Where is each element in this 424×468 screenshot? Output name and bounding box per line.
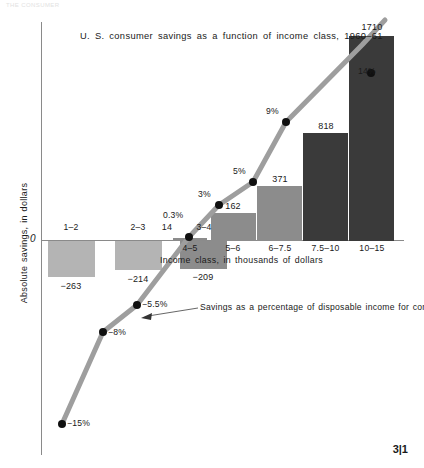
y-axis-zero-tick: 0: [30, 233, 36, 244]
value-label-4-5: 14: [156, 222, 178, 232]
pct-label-3: 3%: [198, 189, 211, 199]
xtick-7.5-10: 7.5–10: [301, 243, 350, 253]
bar-2-3: [115, 241, 162, 270]
xtick-4-5: 4–5: [170, 243, 210, 253]
figure-container: THE CONSUMER U. S. consumer savings as a…: [0, 0, 424, 468]
bar-1-2: [48, 241, 95, 277]
pct-label-14: 14%: [358, 66, 376, 76]
pct-label-9: 9%: [266, 106, 279, 116]
value-label-5-6: 162: [211, 201, 255, 211]
annotation-arrowhead: [141, 313, 152, 320]
y-axis-label: Absolute savings, in dollars: [19, 153, 29, 333]
pct-label--5.5: −5.5%: [142, 299, 168, 309]
xtick-5-6: 5–6: [213, 243, 253, 253]
pct-label-0.3: 0.3%: [163, 210, 183, 220]
point--15pct: [58, 420, 66, 428]
xtick-1-2: 1–2: [51, 222, 91, 232]
pct-label--15: −15%: [67, 418, 90, 428]
value-label-1-2: −263: [49, 281, 93, 291]
point-0.3pct: [185, 233, 193, 241]
xtick-2-3: 2–3: [118, 222, 158, 232]
point-5pct: [249, 178, 257, 186]
xtick-3-4: 3–4: [184, 222, 224, 232]
xtick-10-15: 10–15: [348, 243, 396, 253]
chart-title: U. S. consumer savings as a function of …: [80, 30, 305, 43]
value-label-10-15: 1710: [350, 22, 394, 32]
page-number: 3|1: [393, 443, 408, 455]
bar-6-7.5: [257, 186, 302, 241]
bar-7.5-10: [303, 133, 348, 241]
pct-label--8: −8%: [108, 327, 126, 337]
annotation-leader: [148, 308, 198, 316]
value-label-2-3: −214: [116, 274, 160, 284]
point-9pct: [282, 118, 290, 126]
point--8pct: [99, 328, 107, 336]
value-label-3-4: −209: [181, 272, 225, 282]
point--5.5pct: [133, 301, 141, 309]
value-label-6-7.5: 371: [258, 174, 302, 184]
x-axis-label: Income class, in thousands of dollars: [160, 255, 320, 267]
pct-label-5: 5%: [233, 166, 246, 176]
xtick-6-7.5: 6–7.5: [256, 243, 304, 253]
chart-annotation: Savings as a percentage of disposable in…: [200, 302, 322, 313]
value-label-7.5-10: 818: [304, 121, 348, 131]
